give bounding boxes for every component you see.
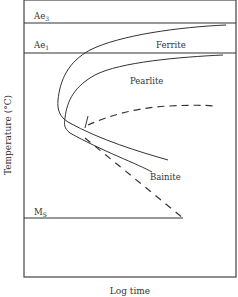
ferrite-label: Ferrite [156, 40, 186, 50]
tick-mark [85, 116, 88, 128]
ms-label: MS [34, 207, 47, 218]
y-axis-label: Temperature (°C) [3, 95, 13, 175]
pearlite-start-curve [65, 55, 223, 172]
x-axis-label: Log time [110, 286, 150, 296]
plot-frame [24, 0, 236, 277]
dashed-upper-curve [88, 105, 215, 125]
bainite-label: Bainite [150, 172, 181, 182]
ae1-label: Ae1 [33, 40, 49, 51]
ttt-diagram: Ferrite Pearlite Bainite Ae3 Ae1 MS Log … [0, 0, 238, 297]
ae3-label: Ae3 [33, 11, 49, 22]
pearlite-label: Pearlite [130, 76, 163, 86]
